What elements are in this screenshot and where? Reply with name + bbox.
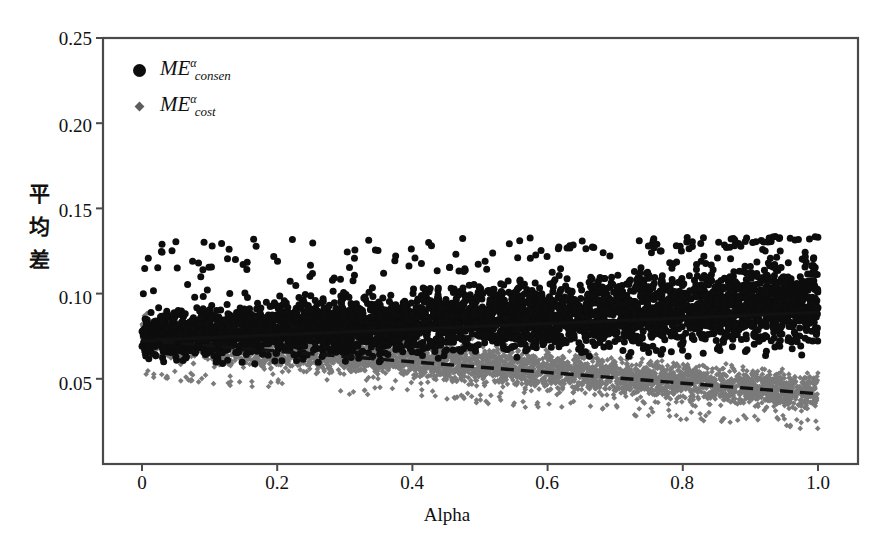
scatter-chart-figure: 平 均 差 Alpha 0.25 0.20 0.15 0.10 0.05 0 0… <box>0 0 894 552</box>
axis-frame <box>96 38 858 471</box>
scatter-points-consen <box>139 233 822 367</box>
plot-area <box>0 0 894 552</box>
